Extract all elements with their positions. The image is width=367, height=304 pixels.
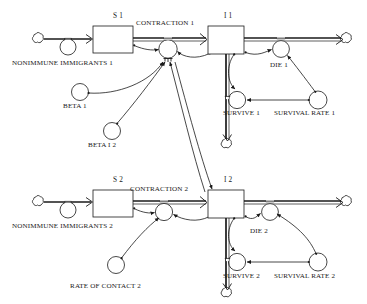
flow-label-contraction-1: CONTRACTION 1 xyxy=(136,20,194,27)
aux-circle-survival-rate-1 xyxy=(309,91,327,109)
flow-label-die-1: DIE 1 xyxy=(270,62,288,69)
flow-valve-survive-1 xyxy=(228,91,245,108)
stock-label-i2: I 2 xyxy=(224,176,232,183)
sink-cloud-icon-2 xyxy=(340,196,351,206)
flow-valve-nonimmune-immigrants-1 xyxy=(60,39,76,55)
stock-box-s1 xyxy=(93,26,133,53)
flow-valve-nonimmune-immigrants-2 xyxy=(60,202,76,218)
flow-label-nonimmune-immigrants-2: NONIMMUNE IMMIGRANTS 2 xyxy=(12,223,113,230)
flow-label-survive-1: SURVIVE 1 xyxy=(223,110,260,117)
flow-valve-contraction-2 xyxy=(155,203,172,220)
stock-label-i1: I 1 xyxy=(224,12,232,19)
aux-label-beta-1: BETA 1 xyxy=(63,103,87,110)
flow-label-nonimmune-immigrants-1: NONIMMUNE IMMIGRANTS 1 xyxy=(12,60,113,67)
flow-valve-survive-2 xyxy=(228,253,245,270)
stock-label-s1: S 1 xyxy=(113,12,123,19)
aux-label-beta-i-2: BETA I 2 xyxy=(88,142,116,149)
flow-valve-die-1 xyxy=(273,41,290,58)
flow-label-contraction-2: CONTRACTION 2 xyxy=(130,186,188,193)
aux-label-survival-rate-1: SURVIVAL RATE 1 xyxy=(274,110,335,117)
aux-label-survival-rate-2: SURVIVAL RATE 2 xyxy=(274,273,335,280)
source-cloud-icon-1 xyxy=(32,33,43,43)
flow-valve-die-2 xyxy=(262,204,279,221)
aux-label-rate-of-contact-2: RATE OF CONTACT 2 xyxy=(70,283,141,290)
stock-box-i1 xyxy=(208,26,244,54)
flow-valve-contraction-1 xyxy=(159,40,177,58)
source-cloud-icon-2 xyxy=(32,196,43,206)
stock-box-s2 xyxy=(93,190,133,217)
aux-circle-beta-i-2 xyxy=(104,123,121,140)
stock-flow-diagram xyxy=(0,0,367,304)
flow-label-survive-2: SURVIVE 2 xyxy=(223,273,260,280)
sink-cloud-icon-1 xyxy=(340,33,351,43)
stock-box-i2 xyxy=(208,190,244,218)
stock-label-s2: S 2 xyxy=(113,176,123,183)
diagram-canvas: S 1 I 1 S 2 I 2 NONIMMUNE IMMIGRANTS 1 C… xyxy=(0,0,367,304)
flow-label-die-2: DIE 2 xyxy=(250,228,268,235)
aux-circle-survival-rate-2 xyxy=(309,253,327,271)
aux-circle-beta-1 xyxy=(72,84,89,101)
